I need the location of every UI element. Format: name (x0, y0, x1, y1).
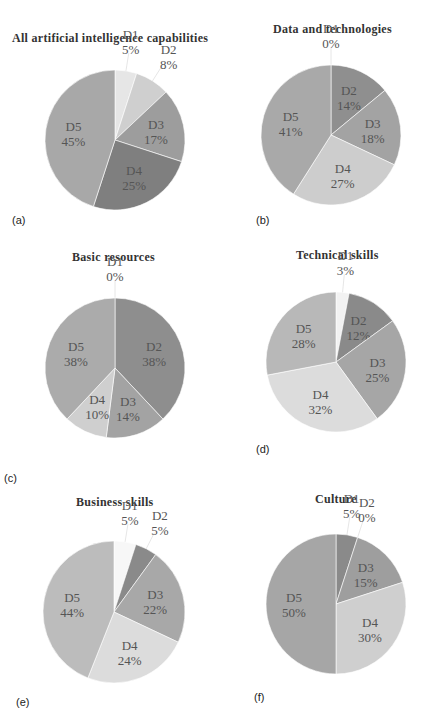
pie-panel-a: All artificial intelligence capabilities… (0, 0, 216, 236)
slice-label-d2: D25% (151, 508, 169, 538)
pie-panel-b: Data and technologies D10%D214%D318%D427… (216, 0, 432, 236)
pie-chart: D15%D28%D317%D425%D545% (0, 0, 216, 236)
pie-chart: D13%D212%D325%D432%D528% (216, 230, 432, 466)
pie-panel-d: Technical skills D13%D212%D325%D432%D528… (216, 230, 432, 466)
pie-panel-c: Basic resources D10%D238%D314%D410%D538%… (0, 230, 216, 466)
slice-label-d1: D13% (337, 248, 355, 278)
panel-tag: (e) (16, 696, 29, 708)
panel-tag: (d) (256, 443, 269, 455)
slice-label-d2: D20% (358, 495, 376, 525)
panel-tag: (f) (254, 691, 264, 703)
slice-label-d1: D15% (121, 498, 139, 528)
pie-chart: D10%D238%D314%D410%D538% (0, 230, 216, 466)
pie-chart: D10%D214%D318%D427%D541% (216, 0, 432, 236)
slice-label-d2: D28% (160, 42, 178, 72)
slice-label-d1: D10% (106, 254, 124, 284)
panel-tag: (a) (12, 214, 25, 226)
panel-tag: (b) (256, 214, 269, 226)
slice-label-d1: D10% (322, 21, 340, 51)
pie-panel-e: Business skills D15%D25%D322%D424%D544% … (0, 470, 216, 706)
pie-panel-f: Culture D15%D20%D315%D430%D550% (f) (216, 470, 432, 706)
pie-chart: D15%D20%D315%D430%D550% (216, 470, 432, 706)
pie-chart: D15%D25%D322%D424%D544% (0, 470, 216, 706)
slice-label-d1: D15% (122, 27, 140, 57)
